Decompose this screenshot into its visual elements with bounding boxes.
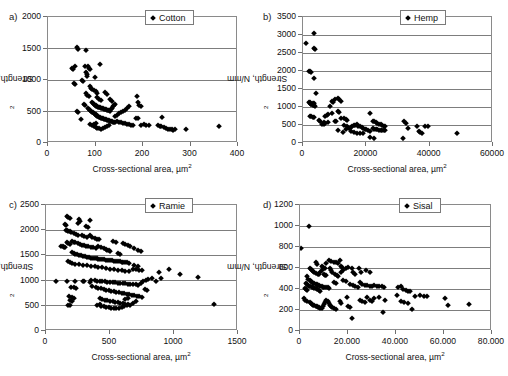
y-axis-tick-label: 1500 <box>277 83 296 93</box>
x-axis-tick-label: 60.000 <box>430 336 456 346</box>
data-point <box>139 267 144 272</box>
y-axis-tick-mark <box>295 288 299 289</box>
y-axis-tick-label: 500 <box>27 106 41 116</box>
x-axis-tick-mark <box>47 142 48 146</box>
x-axis-tick-label: 0 <box>45 148 50 158</box>
data-point <box>99 97 104 102</box>
data-point <box>329 111 334 116</box>
data-point <box>395 293 400 298</box>
data-point <box>76 109 81 114</box>
data-point <box>445 303 450 308</box>
panel-a-x-axis-title-sup: 2 <box>188 162 191 169</box>
y-axis-tick-label: 2000 <box>22 11 41 21</box>
y-axis-tick-label: 1500 <box>22 43 41 53</box>
gridline <box>303 53 491 54</box>
x-axis-tick-mark <box>142 142 143 146</box>
data-point <box>467 301 472 306</box>
data-point <box>383 297 388 302</box>
y-axis-tick-mark <box>295 309 299 310</box>
gridline <box>303 125 491 126</box>
y-axis-tick-label: 2500 <box>20 199 39 209</box>
panel-b-plot-area <box>302 16 492 142</box>
gridline <box>303 89 491 90</box>
panel-b-y-axis-title-sup: 2 <box>262 106 269 109</box>
gridline <box>48 80 236 81</box>
y-axis-tick-mark <box>41 254 45 255</box>
y-axis-tick-mark <box>295 267 299 268</box>
panel-b: b) Strength, N/mm2 Cross-sectional area,… <box>254 0 508 188</box>
data-point <box>308 70 313 75</box>
diamond-marker-icon <box>150 203 156 209</box>
data-point <box>196 274 201 279</box>
y-axis-tick-mark <box>295 246 299 247</box>
panel-a-plot-area <box>47 16 237 142</box>
data-point <box>159 114 164 119</box>
data-point <box>135 93 140 98</box>
panel-c-y-axis-title-text: Strength, N/mm <box>0 262 33 272</box>
y-axis-tick-label: 2000 <box>277 65 296 75</box>
x-axis-tick-label: 200 <box>135 148 149 158</box>
y-axis-tick-label: 1000 <box>22 74 41 84</box>
y-axis-tick-mark <box>298 124 302 125</box>
data-point <box>216 124 221 129</box>
data-point <box>409 307 414 312</box>
y-axis-tick-mark <box>43 16 47 17</box>
x-axis-tick-label: 40000 <box>417 148 441 158</box>
y-axis-tick-label: 600 <box>279 262 293 272</box>
panel-b-x-axis-title: Cross-sectional area, µm2 <box>302 162 492 174</box>
y-axis-tick-mark <box>41 280 45 281</box>
data-point <box>312 46 317 51</box>
data-point <box>454 131 459 136</box>
data-point <box>139 294 144 299</box>
y-axis-tick-mark <box>295 225 299 226</box>
data-point <box>74 286 79 291</box>
y-axis-tick-label: 800 <box>279 241 293 251</box>
y-axis-tick-label: 1200 <box>274 199 293 209</box>
y-axis-tick-mark <box>43 111 47 112</box>
panel-a-x-axis-title: Cross-sectional area, µm2 <box>47 162 237 174</box>
figure-four-panel-scatter: a) Strength, N/mm2 Cross-sectional area,… <box>0 0 508 376</box>
y-axis-tick-mark <box>298 88 302 89</box>
data-point <box>79 116 84 121</box>
panel-d-x-axis-title-text: Cross-sectional area, µm <box>345 352 441 362</box>
panel-a-y-axis-title: Strength, N/mm2 <box>2 16 16 142</box>
x-axis-tick-mark <box>109 330 110 334</box>
panel-d-legend: Sisal <box>399 198 441 213</box>
data-point <box>81 79 86 84</box>
data-point <box>76 46 81 51</box>
data-point <box>345 117 350 122</box>
data-point <box>337 109 342 114</box>
y-axis-tick-mark <box>43 79 47 80</box>
x-axis-tick-label: 300 <box>182 148 196 158</box>
x-axis-tick-mark <box>443 330 444 334</box>
data-point <box>113 240 118 245</box>
data-point <box>83 48 88 53</box>
data-point <box>327 104 332 109</box>
panel-c-legend-label: Ramie <box>159 201 185 211</box>
panel-b-x-axis-title-text: Cross-sectional area, µm <box>347 164 443 174</box>
x-axis-tick-mark <box>95 142 96 146</box>
diamond-marker-icon <box>150 15 156 21</box>
y-axis-tick-label: 2000 <box>20 224 39 234</box>
data-point <box>334 118 339 123</box>
panel-c-legend: Ramie <box>145 198 193 213</box>
x-axis-tick-label: 1500 <box>227 336 246 346</box>
panel-c-y-axis-title: Strength, N/mm2 <box>2 204 16 330</box>
x-axis-tick-label: 80.000 <box>478 336 504 346</box>
data-point <box>324 273 329 278</box>
data-point <box>361 131 366 136</box>
data-point <box>333 306 338 311</box>
data-point <box>178 271 183 276</box>
x-axis-tick-label: 20.000 <box>334 336 360 346</box>
y-axis-tick-label: 0 <box>291 137 296 147</box>
panel-c-x-axis-title-text: Cross-sectional area, µm <box>91 352 187 362</box>
data-point <box>75 221 80 226</box>
data-point <box>419 130 424 135</box>
data-point <box>304 40 309 45</box>
y-axis-tick-label: 500 <box>282 119 296 129</box>
y-axis-tick-mark <box>298 34 302 35</box>
panel-c-plot-area <box>45 204 237 330</box>
panel-c-x-axis-title-sup: 2 <box>187 350 190 357</box>
panel-a-legend: Cotton <box>145 10 194 25</box>
data-point <box>145 287 150 292</box>
